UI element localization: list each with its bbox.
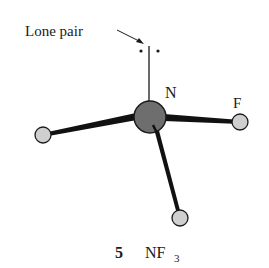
nitrogen-label: N bbox=[165, 84, 177, 101]
nitrogen-atom bbox=[134, 101, 166, 133]
formula-subscript: 3 bbox=[174, 252, 180, 264]
fluorine-atom-left bbox=[35, 127, 51, 143]
nf3-diagram: Lone pair N F 5 NF 3 bbox=[0, 0, 269, 268]
fluorine-label: F bbox=[233, 95, 241, 111]
molecule-figure: Lone pair N F 5 NF 3 bbox=[0, 0, 269, 268]
fluorine-atom-bottom bbox=[172, 210, 188, 226]
lone-pair-label: Lone pair bbox=[25, 23, 83, 39]
bond-n-f-left bbox=[43, 113, 137, 137]
bond-n-f-right bbox=[164, 114, 240, 124]
lone-pair-dot-right bbox=[156, 49, 159, 52]
bond-n-f-bottom bbox=[153, 123, 182, 218]
lone-pair-dot-left bbox=[139, 49, 142, 52]
fluorine-atom-right bbox=[232, 114, 248, 130]
figure-number: 5 bbox=[115, 244, 123, 261]
formula-main: NF bbox=[145, 244, 166, 261]
lone-pair-arrow-icon bbox=[117, 30, 144, 44]
